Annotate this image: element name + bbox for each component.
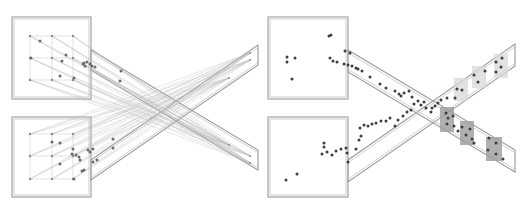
agent-dot	[285, 179, 288, 182]
grid-node	[29, 79, 31, 81]
agent-dot	[417, 100, 420, 103]
agent-dot	[336, 61, 339, 64]
agent-dot	[92, 161, 95, 164]
agent-dot	[440, 99, 443, 102]
density-zone-dark	[440, 107, 454, 132]
path-ray	[73, 53, 250, 156]
grid-node	[51, 178, 53, 180]
grid-node	[51, 79, 53, 81]
agent-dot	[431, 107, 434, 110]
path-ray	[30, 58, 229, 145]
agent-dot	[473, 74, 476, 77]
agent-dot	[39, 40, 42, 43]
agent-dot	[329, 57, 332, 60]
agent-dot	[430, 111, 433, 114]
agent-dot	[65, 54, 68, 57]
path-ray	[52, 80, 250, 163]
agent-dot	[454, 97, 457, 100]
agent-dot	[473, 142, 476, 145]
agent-dot	[385, 87, 388, 90]
agent-dot	[389, 117, 392, 120]
agent-dot	[403, 92, 406, 95]
agent-dot	[400, 95, 403, 98]
agent-dot	[83, 169, 86, 172]
figure-canvas	[0, 0, 526, 215]
agent-dot	[456, 88, 459, 91]
agent-dot	[447, 117, 450, 120]
agent-dot	[360, 135, 363, 138]
agent-dot	[59, 163, 62, 166]
agent-dot	[59, 142, 62, 145]
agent-dot	[394, 125, 397, 128]
top-room	[268, 17, 348, 99]
agent-dot	[357, 68, 360, 71]
grid-node	[72, 133, 74, 135]
exit-target	[249, 155, 251, 157]
agent-dot	[425, 107, 428, 110]
evacuation-simulation-diagram	[0, 0, 526, 215]
agent-dot	[112, 138, 115, 141]
agent-dot	[119, 80, 122, 83]
agent-dot	[75, 154, 78, 157]
agent-dot	[477, 81, 480, 84]
path-ray	[52, 53, 250, 179]
path-ray	[73, 60, 250, 179]
agent-dot	[471, 138, 474, 141]
grid-node	[29, 133, 31, 135]
grid-node	[51, 155, 53, 157]
agent-dot	[367, 125, 370, 128]
agent-dot	[445, 112, 448, 115]
path-ray	[73, 36, 250, 156]
agent-dot	[371, 123, 374, 126]
agent-dot	[51, 141, 54, 144]
agent-dot	[72, 148, 75, 151]
agent-dot	[385, 120, 388, 123]
path-ray	[30, 53, 250, 179]
agent-dot	[91, 65, 94, 68]
agent-dot	[495, 153, 498, 156]
agent-dot	[345, 147, 348, 150]
agent-dot	[78, 156, 81, 159]
agent-dot	[71, 153, 74, 156]
agent-dot	[79, 159, 82, 162]
grid-node	[29, 155, 31, 157]
top-room-inner-wall	[270, 19, 346, 97]
agent-dot	[358, 139, 361, 142]
agent-dot	[330, 34, 333, 37]
agent-dot	[420, 104, 423, 107]
path-ray	[73, 80, 250, 156]
grid-node	[72, 35, 74, 37]
agent-dot	[406, 111, 409, 114]
agent-dot	[359, 127, 362, 130]
bottom-room	[268, 117, 348, 197]
agent-dot	[286, 61, 289, 64]
exit-target	[249, 59, 251, 61]
agent-dot	[452, 115, 455, 118]
agent-dot	[286, 56, 289, 59]
agent-dot	[73, 77, 76, 80]
bottom-room-inner-wall	[270, 119, 346, 195]
agent-dot	[488, 137, 491, 140]
agent-dot	[340, 148, 343, 151]
agent-dot	[321, 153, 324, 156]
exit-target	[228, 77, 230, 79]
agent-dot	[380, 120, 383, 123]
agent-dot	[446, 123, 449, 126]
agent-dot	[408, 90, 411, 93]
agent-dot	[120, 70, 123, 73]
agent-dot	[465, 134, 468, 137]
agent-dot	[413, 103, 416, 106]
agent-dot	[369, 76, 372, 79]
agent-dot	[423, 101, 426, 104]
agent-dot	[94, 66, 97, 69]
agent-dot	[96, 159, 99, 162]
density-zone-dark	[460, 121, 474, 145]
agent-dot	[291, 78, 294, 81]
agent-dot	[461, 89, 464, 92]
agent-dot	[112, 147, 115, 150]
agent-dot	[469, 128, 472, 131]
agent-dot	[410, 109, 413, 112]
grid-node	[51, 35, 53, 37]
agent-dot	[344, 50, 347, 53]
agent-dot	[487, 149, 490, 152]
